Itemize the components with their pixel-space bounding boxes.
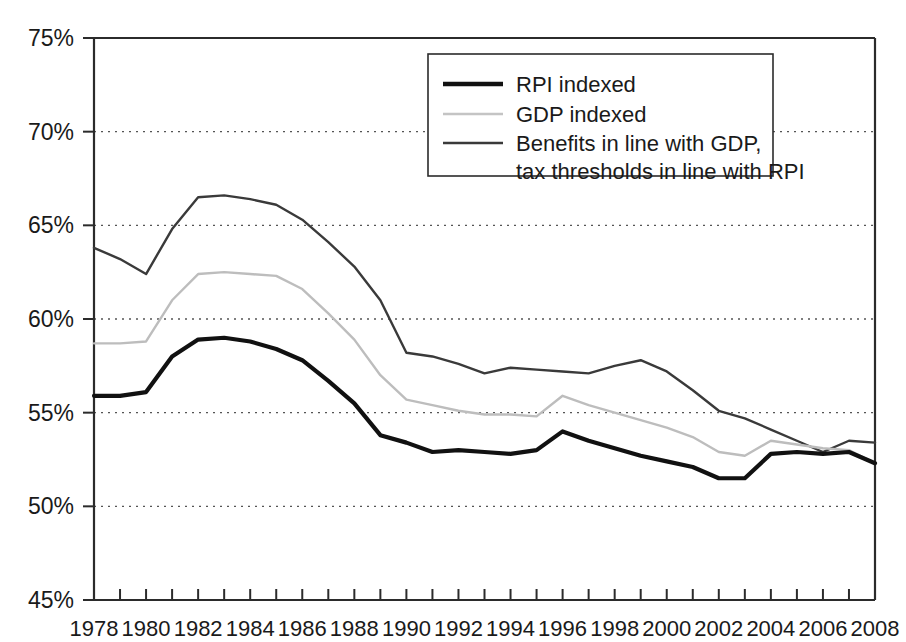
x-tick-label-2006: 2006: [798, 616, 847, 641]
x-tick-label-1994: 1994: [486, 616, 535, 641]
legend-label-rpi-indexed: RPI indexed: [516, 72, 636, 97]
x-tick-label-2000: 2000: [642, 616, 691, 641]
x-tick-label-1986: 1986: [278, 616, 327, 641]
x-tick-label-1984: 1984: [226, 616, 275, 641]
x-tick-label-1998: 1998: [590, 616, 639, 641]
chart-container: 75%70%65%60%55%50%45% 197819801982198419…: [0, 0, 906, 642]
y-tick-label-65: 65%: [28, 212, 74, 238]
x-tick-label-1980: 1980: [122, 616, 171, 641]
x-tick-label-2004: 2004: [746, 616, 795, 641]
x-tick-label-2002: 2002: [694, 616, 743, 641]
x-tick-label-1982: 1982: [174, 616, 223, 641]
line-chart: 75%70%65%60%55%50%45% 197819801982198419…: [0, 0, 906, 642]
chart-legend: RPI indexed GDP indexed Benefits in line…: [428, 54, 805, 184]
legend-label-gdp-indexed: GDP indexed: [516, 102, 646, 127]
legend-label-benefits-line1: Benefits in line with GDP,: [516, 131, 761, 156]
x-tick-label-1992: 1992: [434, 616, 483, 641]
y-tick-label-50: 50%: [28, 493, 74, 519]
x-tick-label-2008: 2008: [851, 616, 900, 641]
x-tick-label-1996: 1996: [538, 616, 587, 641]
x-tick-label-1978: 1978: [70, 616, 119, 641]
y-tick-label-70: 70%: [28, 119, 74, 145]
y-tick-label-55: 55%: [28, 400, 74, 426]
x-tick-label-1990: 1990: [382, 616, 431, 641]
legend-label-benefits-line2: tax thresholds in line with RPI: [516, 159, 805, 184]
x-tick-label-1988: 1988: [330, 616, 379, 641]
y-tick-label-60: 60%: [28, 306, 74, 332]
y-tick-label-45: 45%: [28, 587, 74, 613]
y-tick-label-75: 75%: [28, 25, 74, 51]
